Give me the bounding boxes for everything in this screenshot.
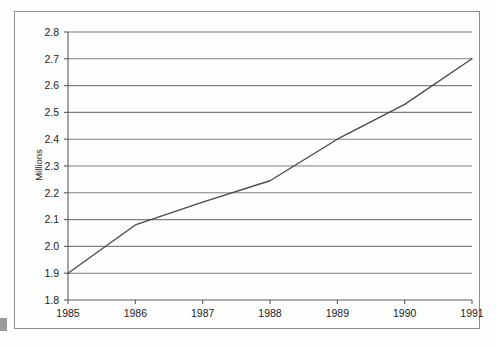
y-tick-label: 2.0 [44,240,59,252]
y-axis-title: Millions [33,149,44,181]
y-tick-label: 2.2 [44,187,59,199]
x-tick-label: 1989 [326,307,350,319]
y-tick-label: 1.8 [44,294,59,306]
y-tick-label: 2.4 [44,133,59,145]
x-tick-label: 1987 [191,307,215,319]
y-tick-label: 2.1 [44,213,59,225]
x-tick-group: 1985198619871988198919901991 [56,300,484,319]
y-tick-label: 2.8 [44,26,59,38]
x-tick-label: 1985 [56,307,80,319]
y-tick-group: 2.82.72.62.52.42.32.22.12.01.91.8 [44,26,68,306]
y-tick-label: 1.9 [44,267,59,279]
x-tick-label: 1988 [258,307,282,319]
y-tick-label: 2.5 [44,106,59,118]
x-tick-label: 1991 [460,307,484,319]
gridline-group [68,32,472,273]
line-chart: 2.82.72.62.52.42.32.22.12.01.91.8 198519… [0,0,496,346]
y-tick-label: 2.7 [44,53,59,65]
y-tick-label: 2.3 [44,160,59,172]
y-tick-label: 2.6 [44,79,59,91]
x-tick-label: 1990 [393,307,417,319]
x-tick-label: 1986 [124,307,148,319]
figure-container: 2.82.72.62.52.42.32.22.12.01.91.8 198519… [0,0,496,346]
